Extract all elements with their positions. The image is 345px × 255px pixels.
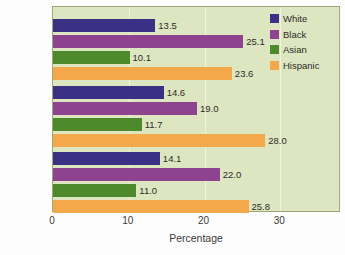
bar-males-asian	[53, 118, 142, 131]
bar-males-hispanic	[53, 134, 265, 147]
bar-total-asian	[53, 184, 136, 197]
legend-swatch-asian-icon	[270, 45, 279, 54]
legend-swatch-white-icon	[270, 14, 279, 23]
x-tick-20: 20	[198, 215, 209, 226]
bar-value-males-black: 19.0	[200, 102, 219, 115]
bar-females-asian	[53, 51, 130, 64]
legend-label-white: White	[283, 13, 307, 24]
legend-swatch-black-icon	[270, 30, 279, 39]
legend-swatch-hispanic-icon	[270, 61, 279, 70]
bar-males-white	[53, 86, 164, 99]
bar-total-white	[53, 152, 160, 165]
legend-item-asian: Asian	[270, 43, 340, 56]
bar-value-total-black: 22.0	[223, 168, 242, 181]
legend-item-white: White	[270, 12, 340, 25]
bar-value-total-asian: 11.0	[139, 184, 157, 197]
bar-value-total-white: 14.1	[163, 152, 182, 165]
legend: WhiteBlackAsianHispanic	[270, 12, 340, 74]
x-tick-0: 0	[49, 215, 55, 226]
bar-value-females-black: 25.1	[246, 35, 265, 48]
x-axis-title: Percentage	[52, 232, 340, 244]
bar-value-males-hispanic: 28.0	[268, 134, 287, 147]
legend-label-asian: Asian	[283, 44, 307, 55]
bar-chart: 13.525.110.123.614.619.011.728.014.122.0…	[0, 0, 345, 255]
bar-value-males-white: 14.6	[167, 86, 186, 99]
legend-label-black: Black	[283, 29, 306, 40]
x-tick-10: 10	[122, 215, 133, 226]
bar-value-females-hispanic: 23.6	[235, 67, 254, 80]
bar-females-black	[53, 35, 243, 48]
bar-value-total-hispanic: 25.8	[252, 200, 271, 213]
bar-value-females-white: 13.5	[158, 19, 177, 32]
x-tick-30: 30	[274, 215, 285, 226]
bar-value-males-asian: 11.7	[145, 118, 163, 131]
legend-item-hispanic: Hispanic	[270, 59, 340, 72]
bar-females-hispanic	[53, 67, 232, 80]
legend-label-hispanic: Hispanic	[283, 60, 319, 71]
bar-females-white	[53, 19, 155, 32]
bar-total-black	[53, 168, 220, 181]
legend-item-black: Black	[270, 28, 340, 41]
bar-males-black	[53, 102, 197, 115]
bar-value-females-asian: 10.1	[133, 51, 152, 64]
bar-total-hispanic	[53, 200, 249, 213]
